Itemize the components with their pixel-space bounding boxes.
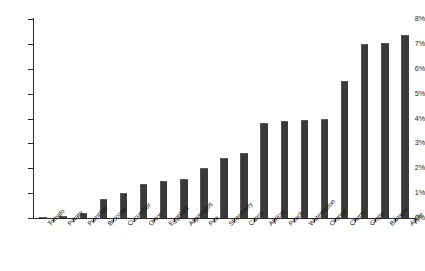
bar xyxy=(39,217,47,218)
bar xyxy=(260,123,268,218)
x-tick-label: Pea xyxy=(207,222,212,227)
y-tick-mark xyxy=(28,193,33,194)
x-tick-label: Broccoli xyxy=(106,222,111,227)
x-tick-label: Cucumber xyxy=(126,222,131,227)
x-tick-label: Cherry xyxy=(348,222,353,227)
bar xyxy=(281,121,289,218)
y-tick-mark xyxy=(28,119,33,120)
bar xyxy=(361,44,369,218)
x-tick-label: Banana xyxy=(388,222,393,227)
bar xyxy=(220,158,228,218)
bar xyxy=(401,35,409,218)
x-tick-label: Pumpkin xyxy=(86,222,91,227)
y-tick-mark xyxy=(28,69,33,70)
x-tick-label: Carrot xyxy=(247,222,252,227)
y-axis-line xyxy=(33,18,34,219)
y-tick-mark xyxy=(28,94,33,95)
y-tick-label: 8% xyxy=(401,15,425,23)
x-tick-label: Apricot xyxy=(267,222,272,227)
x-tick-label: Tomato xyxy=(46,222,51,227)
x-tick-label: Asparagus xyxy=(187,222,192,227)
x-tick-label: Strawberry xyxy=(227,222,232,227)
x-tick-label: Peach xyxy=(287,222,292,227)
bar xyxy=(381,43,389,218)
y-tick-mark xyxy=(28,143,33,144)
x-tick-label: Orange xyxy=(328,222,333,227)
bar xyxy=(341,81,349,218)
bar-chart: 0%1%2%3%4%5%6%7%8% TomatoPotatoPumpkinBr… xyxy=(0,0,425,271)
x-tick-label: Grape xyxy=(368,222,373,227)
y-tick-mark xyxy=(28,168,33,169)
x-tick-label: Watermelon xyxy=(307,222,312,227)
x-tick-label: Apple xyxy=(408,222,413,227)
y-tick-mark xyxy=(28,218,33,219)
x-tick-label: Potato xyxy=(66,222,71,227)
y-tick-mark xyxy=(28,19,33,20)
y-tick-mark xyxy=(28,44,33,45)
bar xyxy=(301,120,309,218)
x-tick-label: Eggplant xyxy=(167,222,172,227)
x-tick-label: Onion xyxy=(147,222,152,227)
